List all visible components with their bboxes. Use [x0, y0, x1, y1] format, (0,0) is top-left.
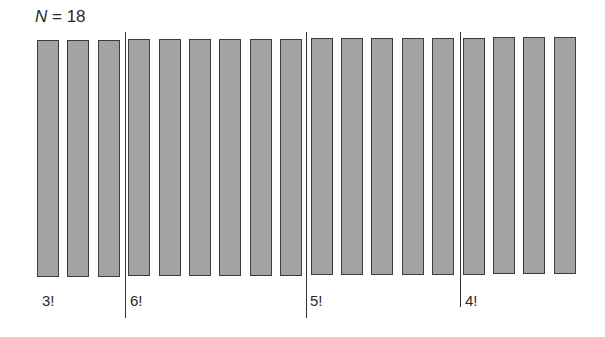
title-variable: N: [35, 7, 47, 26]
bar-15: [463, 38, 485, 275]
diagram-title: N = 18: [35, 7, 86, 27]
bar-17: [523, 37, 545, 274]
bar-10: [311, 38, 333, 275]
bar-11: [341, 38, 363, 275]
bar-1: [37, 40, 59, 277]
bar-6: [189, 39, 211, 276]
bar-8: [250, 39, 272, 276]
bar-7: [219, 39, 241, 276]
group-separator-1: [125, 32, 126, 318]
group-label-4: 4!: [465, 292, 478, 309]
bar-2: [67, 40, 89, 277]
group-label-2: 6!: [130, 292, 143, 309]
bar-13: [402, 38, 424, 275]
bar-14: [432, 38, 454, 275]
group-separator-2: [306, 32, 307, 318]
bar-3: [98, 40, 120, 277]
bar-5: [159, 39, 181, 276]
title-value: = 18: [47, 7, 85, 26]
bar-9: [280, 39, 302, 276]
bar-16: [493, 37, 515, 274]
group-label-1: 3!: [42, 292, 55, 309]
bar-4: [128, 39, 150, 276]
group-separator-3: [460, 32, 461, 307]
bar-18: [554, 37, 576, 274]
group-label-3: 5!: [310, 292, 323, 309]
bar-12: [371, 38, 393, 275]
